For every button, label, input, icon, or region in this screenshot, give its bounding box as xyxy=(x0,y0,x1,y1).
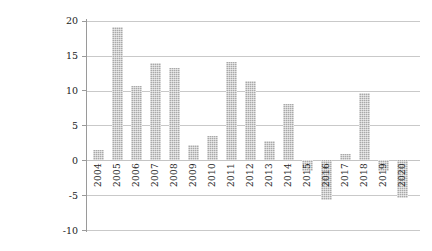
x-axis-tick-label-2009: 2009 xyxy=(188,163,199,187)
bar-chart: 20 15 10 5 0 -5 -10 xyxy=(0,0,432,251)
bar-2008 xyxy=(169,68,180,160)
x-axis-tick-label-2018: 2018 xyxy=(359,163,370,187)
x-axis-tick-label-2016: 2016 xyxy=(321,163,332,187)
y-axis-tick-label-5: 5 xyxy=(0,121,78,130)
gridline-zero xyxy=(87,160,420,161)
y-axis-tick-label-10: 10 xyxy=(0,86,78,95)
bar-2007 xyxy=(150,63,161,161)
bar-2009 xyxy=(188,145,199,160)
x-axis-tick-label-2020: 2020 xyxy=(397,163,408,187)
x-axis-tick-label-2019: 2019 xyxy=(378,163,389,187)
bar-2010 xyxy=(207,136,218,160)
bar-2018 xyxy=(359,93,370,160)
bar-2011 xyxy=(226,62,237,160)
x-axis-tick-label-2006: 2006 xyxy=(131,163,142,187)
gridline-neg5 xyxy=(87,195,420,196)
bar-2014 xyxy=(283,104,294,160)
gridline-15 xyxy=(87,56,420,57)
bar-2006 xyxy=(131,86,142,161)
plot-area xyxy=(87,21,420,230)
x-axis-tick-label-2010: 2010 xyxy=(207,163,218,187)
x-axis-tick-label-2005: 2005 xyxy=(112,163,123,187)
x-axis-tick-label-2015: 2015 xyxy=(302,163,313,187)
y-axis-tick-label-neg10: -10 xyxy=(0,226,78,235)
y-axis-tick-label-0: 0 xyxy=(0,156,78,165)
gridline-20 xyxy=(87,21,420,22)
x-axis-tick-label-2012: 2012 xyxy=(245,163,256,187)
bar-2005 xyxy=(112,27,123,160)
x-axis-tick-label-2011: 2011 xyxy=(226,163,237,187)
bar-2017 xyxy=(340,154,351,160)
x-axis-tick-label-2014: 2014 xyxy=(283,163,294,187)
y-axis-tick-label-15: 15 xyxy=(0,51,78,60)
y-axis-tick-label-neg5: -5 xyxy=(0,191,78,200)
x-axis-tick-label-2017: 2017 xyxy=(340,163,351,187)
bar-2004 xyxy=(93,150,104,161)
x-axis-tick-label-2004: 2004 xyxy=(93,163,104,187)
gridline-neg10 xyxy=(87,230,420,231)
y-axis-tick-label-20: 20 xyxy=(0,16,78,25)
bar-2013 xyxy=(264,141,275,160)
bar-2012 xyxy=(245,81,256,160)
x-axis-tick-label-2013: 2013 xyxy=(264,163,275,187)
x-axis-tick-label-2008: 2008 xyxy=(169,163,180,187)
x-axis-tick-label-2007: 2007 xyxy=(150,163,161,187)
